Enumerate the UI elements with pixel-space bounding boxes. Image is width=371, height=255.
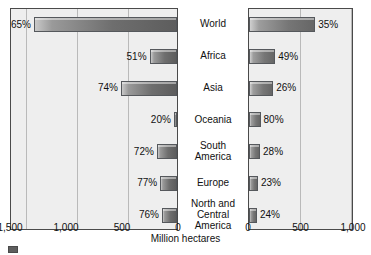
left-bar bbox=[174, 112, 177, 127]
category-label-line: Central bbox=[178, 209, 248, 220]
category-label: Europe bbox=[178, 177, 248, 188]
legend bbox=[8, 246, 248, 255]
left-bar-row: 74% bbox=[11, 72, 177, 104]
right-bar-value-label: 24% bbox=[260, 210, 280, 220]
left-bar-value-label: 20% bbox=[151, 115, 171, 125]
category-label-line: Oceania bbox=[178, 114, 248, 125]
legend-swatch-icon bbox=[8, 246, 18, 253]
category-label-line: World bbox=[178, 18, 248, 29]
right-bar-row: 49% bbox=[249, 41, 352, 73]
right-bar-value-label: 28% bbox=[263, 147, 283, 157]
category-label: Oceania bbox=[178, 114, 248, 125]
right-bar-rows: 35%49%26%80%28%23%24% bbox=[249, 9, 352, 229]
right-bar bbox=[249, 49, 275, 64]
right-plot-panel: 35%49%26%80%28%23%24% bbox=[248, 8, 353, 230]
left-bar-row: 65% bbox=[11, 9, 177, 41]
category-label: Africa bbox=[178, 50, 248, 61]
category-label-line: America bbox=[178, 220, 248, 231]
left-bar-value-label: 72% bbox=[134, 147, 154, 157]
category-label-column: WorldAfricaAsiaOceaniaSouthAmericaEurope… bbox=[178, 8, 248, 230]
category-label: SouthAmerica bbox=[178, 140, 248, 162]
left-bar-value-label: 65% bbox=[11, 20, 31, 30]
category-label-line: Asia bbox=[178, 82, 248, 93]
right-bar-row: 35% bbox=[249, 9, 352, 41]
left-bar-value-label: 74% bbox=[98, 83, 118, 93]
category-label-line: Europe bbox=[178, 177, 248, 188]
left-bar-value-label: 76% bbox=[139, 210, 159, 220]
category-label-line: North and bbox=[178, 198, 248, 209]
right-bar-row: 28% bbox=[249, 136, 352, 168]
left-bar bbox=[157, 144, 177, 159]
right-bar-value-label: 23% bbox=[261, 178, 281, 188]
category-label: North andCentralAmerica bbox=[178, 198, 248, 231]
left-bar-row: 51% bbox=[11, 41, 177, 73]
left-bar-row: 77% bbox=[11, 168, 177, 200]
right-bar-row: 80% bbox=[249, 104, 352, 136]
category-label: World bbox=[178, 18, 248, 29]
left-plot-panel: 65%51%74%20%72%77%76% bbox=[10, 8, 178, 230]
right-bar-row: 23% bbox=[249, 168, 352, 200]
right-bar-value-label: 80% bbox=[264, 115, 284, 125]
right-bar-value-label: 49% bbox=[278, 52, 298, 62]
right-bar-value-label: 35% bbox=[318, 20, 338, 30]
left-bar-rows: 65%51%74%20%72%77%76% bbox=[11, 9, 177, 229]
left-bar-value-label: 51% bbox=[127, 52, 147, 62]
left-bar bbox=[150, 49, 177, 64]
bidirectional-bar-chart: 65%51%74%20%72%77%76% WorldAfricaAsiaOce… bbox=[0, 0, 371, 255]
left-bar bbox=[34, 17, 177, 32]
left-bar-row: 20% bbox=[11, 104, 177, 136]
left-bar bbox=[162, 208, 177, 223]
left-bar bbox=[121, 81, 177, 96]
right-bar-row: 26% bbox=[249, 72, 352, 104]
right-bar bbox=[249, 17, 315, 32]
right-bar bbox=[249, 112, 261, 127]
category-label-line: Africa bbox=[178, 50, 248, 61]
left-bar-row: 72% bbox=[11, 136, 177, 168]
category-label: Asia bbox=[178, 82, 248, 93]
right-bar-value-label: 26% bbox=[276, 83, 296, 93]
category-label-line: South bbox=[178, 140, 248, 151]
x-axis-title: Million hectares bbox=[0, 233, 371, 245]
left-bar-value-label: 77% bbox=[137, 178, 157, 188]
right-bar bbox=[249, 208, 257, 223]
right-bar bbox=[249, 81, 273, 96]
category-label-line: America bbox=[178, 151, 248, 162]
right-bar bbox=[249, 176, 258, 191]
left-bar bbox=[160, 176, 177, 191]
right-bar bbox=[249, 144, 260, 159]
